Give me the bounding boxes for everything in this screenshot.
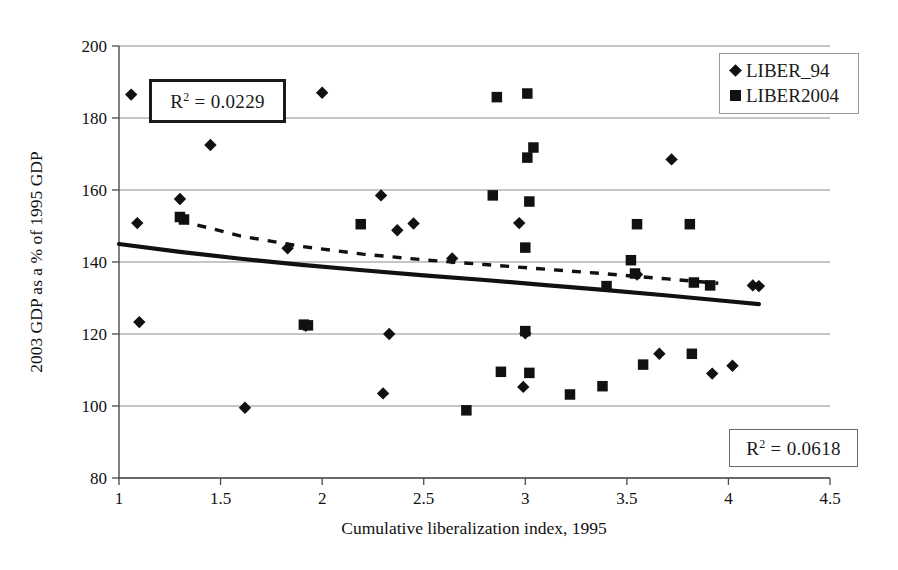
data-point-LIBER2004: [461, 405, 472, 416]
x-tick-label-1.5: 1.5: [210, 489, 231, 508]
data-point-LIBER_94: [391, 224, 403, 236]
legend-item-liber2004: LIBER2004: [727, 83, 851, 108]
data-point-LIBER2004: [632, 219, 643, 230]
data-point-LIBER2004: [528, 142, 539, 153]
data-point-LIBER_94: [125, 88, 137, 100]
x-tick-label-3.5: 3.5: [616, 489, 637, 508]
data-point-LIBER2004: [705, 280, 716, 291]
r2-top-text: R2 = 0.0229: [170, 92, 264, 111]
data-point-LIBER2004: [355, 219, 366, 230]
data-point-LIBER_94: [513, 217, 525, 229]
x-tick-label-2.5: 2.5: [413, 489, 434, 508]
y-tick-label-100: 100: [82, 397, 108, 416]
y-tick-label-180: 180: [82, 109, 108, 128]
series-markers-liber2004: [175, 88, 716, 415]
r-squared-annotation-top: R2 = 0.0229: [149, 79, 286, 123]
data-point-LIBER2004: [522, 88, 533, 99]
data-point-LIBER2004: [626, 255, 637, 266]
y-tick-label-140: 140: [82, 253, 108, 272]
data-point-LIBER_94: [133, 316, 145, 328]
data-point-LIBER2004: [496, 367, 507, 378]
x-tick-label-4: 4: [724, 489, 733, 508]
scatter-chart-figure: 8010012014016018020011.522.533.544.5 Cum…: [0, 0, 898, 570]
data-point-LIBER_94: [204, 139, 216, 151]
data-point-LIBER_94: [726, 359, 738, 371]
data-point-LIBER2004: [522, 152, 533, 163]
y-tick-label-80: 80: [90, 469, 107, 488]
data-point-LIBER_94: [665, 153, 677, 165]
x-tick-label-1: 1: [115, 489, 124, 508]
data-point-LIBER2004: [687, 349, 698, 360]
legend-label-liber2004: LIBER2004: [746, 85, 839, 107]
r2-bottom-text: R2 = 0.0618: [746, 439, 840, 458]
chart-legend: LIBER_94 LIBER2004: [719, 53, 859, 114]
data-point-LIBER2004: [689, 277, 700, 288]
data-point-LIBER2004: [597, 381, 608, 392]
series-markers-liber94: [125, 87, 765, 414]
legend-item-liber94: LIBER_94: [727, 58, 851, 83]
data-point-LIBER_94: [174, 193, 186, 205]
y-tick-label-120: 120: [82, 325, 108, 344]
data-point-LIBER_94: [131, 217, 143, 229]
diamond-marker-icon: [727, 66, 744, 75]
y-tick-label-200: 200: [82, 37, 108, 56]
data-point-LIBER_94: [383, 328, 395, 340]
x-axis-title: Cumulative liberalization index, 1995: [341, 518, 607, 538]
data-point-LIBER2004: [565, 389, 576, 400]
y-axis-title: 2003 GDP as a % of 1995 GDP: [26, 151, 46, 373]
data-point-LIBER2004: [524, 368, 535, 379]
x-tick-label-2: 2: [318, 489, 327, 508]
square-marker-icon: [727, 90, 744, 101]
data-point-LIBER2004: [492, 92, 503, 103]
data-point-LIBER2004: [524, 196, 535, 207]
data-point-LIBER_94: [239, 402, 251, 414]
data-point-LIBER_94: [375, 189, 387, 201]
data-point-LIBER2004: [520, 242, 531, 253]
r-squared-annotation-bottom: R2 = 0.0618: [729, 429, 858, 467]
data-point-LIBER2004: [601, 281, 612, 292]
data-point-LIBER2004: [488, 190, 499, 201]
data-point-LIBER_94: [517, 381, 529, 393]
data-point-LIBER_94: [377, 387, 389, 399]
x-tick-label-4.5: 4.5: [819, 489, 840, 508]
trendline-LIBER_94-trend: [119, 244, 759, 304]
x-tick-label-3: 3: [521, 489, 530, 508]
data-point-LIBER_94: [316, 87, 328, 99]
data-point-LIBER_94: [653, 348, 665, 360]
data-point-LIBER2004: [685, 219, 696, 230]
data-point-LIBER_94: [407, 217, 419, 229]
data-point-LIBER_94: [706, 367, 718, 379]
y-tick-label-160: 160: [82, 181, 108, 200]
legend-label-liber94: LIBER_94: [746, 60, 829, 82]
data-point-LIBER2004: [638, 359, 649, 370]
